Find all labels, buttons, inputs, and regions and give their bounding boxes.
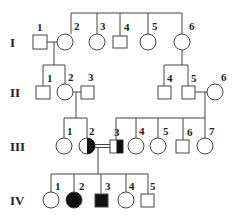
generation-label-iv: IV — [10, 193, 25, 208]
male-symbol — [113, 36, 127, 48]
individual-ii-6: 6 — [207, 71, 227, 100]
individual-ii-1: 1 — [36, 72, 53, 99]
svg-text:5: 5 — [150, 180, 156, 192]
male-symbol — [176, 140, 189, 153]
svg-text:1: 1 — [55, 180, 61, 192]
affected-male-symbol — [95, 194, 108, 207]
half-fill — [87, 138, 95, 154]
svg-text:4: 4 — [139, 125, 145, 137]
individual-i-5: 5 — [140, 20, 158, 50]
svg-text:4: 4 — [124, 21, 130, 33]
individual-i-4: 4 — [113, 21, 130, 48]
female-symbol — [140, 34, 156, 50]
female-symbol — [197, 138, 213, 154]
individual-i-6: 6 — [174, 20, 195, 50]
male-symbol — [158, 86, 171, 99]
female-symbol — [118, 192, 134, 208]
svg-text:6: 6 — [221, 71, 227, 83]
male-symbol — [81, 86, 94, 99]
svg-text:3: 3 — [88, 71, 94, 83]
female-symbol — [150, 138, 166, 154]
svg-text:3: 3 — [105, 180, 111, 192]
svg-text:5: 5 — [152, 20, 158, 32]
svg-text:1: 1 — [37, 21, 43, 33]
female-symbol — [128, 138, 144, 154]
svg-text:5: 5 — [191, 72, 197, 84]
svg-text:2: 2 — [68, 71, 74, 83]
individual-iii-5: 5 — [150, 125, 169, 154]
affected-female-symbol — [66, 192, 82, 208]
individual-iv-2: 2 — [66, 180, 85, 208]
individual-iii-3: 3 — [110, 126, 123, 153]
svg-text:2: 2 — [74, 20, 80, 32]
individual-iv-3: 3 — [95, 180, 111, 207]
svg-text:6: 6 — [187, 126, 193, 138]
individual-ii-4: 4 — [158, 72, 173, 99]
pedigree-chart: I II III IV — [0, 0, 239, 218]
generation-label-ii: II — [10, 85, 20, 100]
svg-text:5: 5 — [163, 125, 169, 137]
generation-label-iii: III — [10, 139, 25, 154]
individual-i-1: 1 — [33, 21, 47, 49]
svg-text:3: 3 — [114, 126, 120, 138]
half-fill — [117, 140, 124, 153]
individual-iii-6: 6 — [176, 126, 193, 153]
female-symbol — [57, 34, 73, 50]
svg-text:7: 7 — [209, 125, 215, 137]
male-symbol — [141, 194, 154, 207]
female-symbol — [174, 34, 190, 50]
male-symbol — [36, 86, 50, 99]
male-symbol — [182, 86, 195, 99]
svg-text:1: 1 — [47, 72, 53, 84]
female-symbol — [57, 84, 73, 100]
svg-text:2: 2 — [89, 125, 95, 137]
female-symbol — [89, 34, 105, 50]
individual-i-2: 2 — [57, 20, 80, 50]
individual-ii-5: 5 — [182, 72, 197, 99]
individual-ii-3: 3 — [81, 71, 94, 99]
svg-text:6: 6 — [189, 20, 195, 32]
generation-label-i: I — [10, 35, 15, 50]
male-symbol — [33, 35, 47, 49]
svg-text:4: 4 — [129, 180, 135, 192]
svg-text:1: 1 — [67, 125, 73, 137]
svg-text:4: 4 — [167, 72, 173, 84]
female-symbol — [43, 192, 59, 208]
svg-text:2: 2 — [79, 180, 85, 192]
female-symbol — [56, 138, 72, 154]
individual-iii-7: 7 — [197, 125, 215, 154]
svg-text:3: 3 — [100, 20, 106, 32]
female-symbol — [207, 84, 223, 100]
individual-iv-1: 1 — [43, 180, 61, 208]
